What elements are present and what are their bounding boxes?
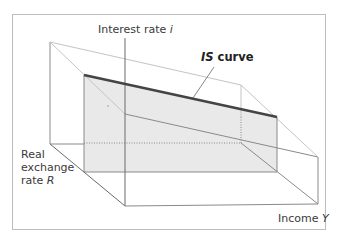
is-curve-label: IS curve [201, 51, 254, 64]
front-right-diagonal [241, 143, 318, 204]
label-line: exchange [21, 161, 71, 174]
interest-rate-label: Interest rate i [98, 23, 173, 36]
plane-mark [107, 105, 109, 107]
is-curve-3d-diagram [0, 0, 342, 241]
is-label-leader [193, 67, 214, 98]
label-line: Real [21, 148, 71, 161]
income-axis [125, 204, 318, 206]
real-exchange-rate-label: Real exchange rate R [21, 148, 71, 187]
label-line: rate R [21, 174, 71, 187]
is-plane [84, 75, 277, 172]
income-label: Income Y [278, 212, 329, 225]
